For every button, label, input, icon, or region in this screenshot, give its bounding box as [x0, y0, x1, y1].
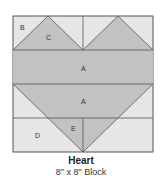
heart-block-diagram: B C A A D E: [0, 0, 162, 155]
block-size: 8" x 8" Block: [0, 167, 162, 177]
label-a-bottom: A: [81, 98, 86, 105]
label-b: B: [20, 24, 25, 31]
label-e: E: [71, 125, 76, 132]
label-c: C: [46, 34, 51, 41]
label-a-top: A: [81, 65, 86, 72]
block-title: Heart: [0, 155, 162, 166]
label-d: D: [35, 132, 40, 139]
